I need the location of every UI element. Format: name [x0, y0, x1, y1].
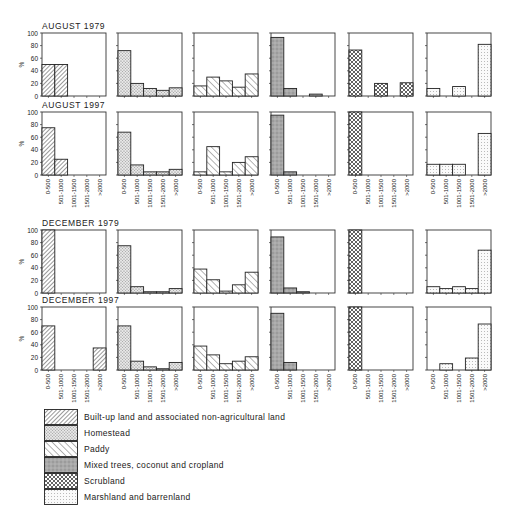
bar [118, 51, 131, 96]
x-tick-label: 1001-1500 [147, 178, 153, 207]
y-tick-label: 80 [31, 121, 39, 128]
bar [42, 326, 55, 370]
bar [232, 361, 245, 370]
bar [93, 348, 106, 370]
bar [440, 164, 453, 175]
bar [453, 87, 466, 96]
bar [156, 292, 169, 293]
x-tick-label: >2000 [326, 178, 332, 196]
bar [245, 157, 258, 175]
x-tick-label: 0-500 [274, 178, 280, 194]
bar [194, 86, 207, 96]
bar [194, 172, 207, 175]
x-tick-label: 0-500 [430, 178, 436, 194]
bar [42, 128, 55, 175]
legend-swatch-icon [44, 425, 78, 441]
y-tick-label: 40 [31, 264, 39, 271]
bar [349, 112, 362, 175]
x-tick-label: 0-500 [197, 373, 203, 389]
x-tick-label: 501-1000 [210, 373, 216, 399]
legend: Built-up land and associated non-agricul… [44, 409, 285, 505]
legend-label: Scrubland [84, 476, 125, 486]
x-tick-label: 0-500 [352, 178, 358, 194]
bar [207, 280, 220, 293]
x-tick-label: >2000 [249, 373, 255, 391]
x-tick-label: >2000 [326, 373, 332, 391]
bar [156, 90, 169, 96]
x-tick-label: >2000 [482, 373, 488, 391]
y-axis-label: % [18, 61, 25, 67]
x-tick-label: 1501-2000 [469, 178, 475, 207]
bar [284, 288, 297, 293]
x-tick-label: >2000 [249, 178, 255, 196]
chart-panel [116, 230, 182, 295]
legend-swatch-icon [44, 473, 78, 489]
y-tick-label: 40 [31, 67, 39, 74]
x-tick-label: 1001-1500 [300, 373, 306, 402]
bar [465, 289, 478, 293]
period-title: AUGUST 1997 [42, 100, 105, 110]
x-tick-label: 1001-1500 [71, 373, 77, 402]
y-tick-label: 80 [31, 42, 39, 49]
x-tick-label: 501-1000 [365, 178, 371, 204]
y-tick-label: 100 [27, 30, 38, 37]
x-tick-label: 0-500 [430, 373, 436, 389]
y-tick-label: 100 [27, 109, 38, 116]
bar [271, 237, 284, 293]
y-tick-label: 60 [31, 252, 39, 259]
legend-label: Mixed trees, coconut and cropland [84, 460, 224, 470]
bar [194, 269, 207, 293]
x-tick-label: 1001-1500 [147, 373, 153, 402]
bar [220, 291, 233, 293]
legend-swatch-icon [44, 489, 78, 505]
panel-row: DECEMBER 1979020406080100% [18, 218, 491, 297]
bar [427, 88, 440, 96]
bar [131, 165, 144, 175]
bar [478, 44, 491, 96]
chart-panel [192, 33, 258, 98]
x-tick-label: 1501-2000 [236, 373, 242, 402]
y-tick-label: 60 [31, 55, 39, 62]
bar [220, 364, 233, 370]
y-tick-label: 0 [34, 367, 38, 374]
x-tick-label: 1501-2000 [236, 178, 242, 207]
legend-item: Homestead [44, 425, 285, 441]
chart-panel: 0-500501-10001001-15001501-2000>2000 [192, 112, 258, 208]
bar [271, 37, 284, 96]
y-axis-label: % [18, 335, 25, 341]
chart-panel [269, 33, 335, 98]
x-tick-label: 0-500 [197, 178, 203, 194]
bar [194, 346, 207, 370]
chart-panel: 0-500501-10001001-15001501-2000>2000 [269, 112, 335, 208]
x-tick-label: 1501-2000 [160, 373, 166, 402]
x-tick-label: 501-1000 [134, 373, 140, 399]
y-tick-label: 20 [31, 277, 39, 284]
legend-item: Scrubland [44, 473, 285, 489]
x-tick-label: 0-500 [121, 178, 127, 194]
y-axis-label: % [18, 140, 25, 146]
bar [478, 133, 491, 175]
bar [349, 50, 362, 96]
x-tick-label: 0-500 [45, 373, 51, 389]
legend-label: Homestead [84, 428, 130, 438]
period-title: DECEMBER 1997 [42, 295, 119, 305]
x-tick-label: 1001-1500 [71, 178, 77, 207]
chart-panel [425, 33, 491, 98]
chart-panel [347, 33, 413, 98]
chart-panel: 0-500501-10001001-15001501-2000>2000 [40, 112, 106, 208]
y-tick-label: 20 [31, 80, 39, 87]
x-tick-label: >2000 [404, 178, 410, 196]
bar [144, 367, 157, 370]
x-tick-label: 0-500 [121, 373, 127, 389]
y-tick-label: 0 [34, 290, 38, 297]
chart-panel: 0-500501-10001001-15001501-2000>2000 [269, 307, 335, 403]
chart-panel [116, 33, 182, 98]
bar [271, 313, 284, 370]
y-axis-label: % [18, 258, 25, 264]
chart-panel: 0-500501-10001001-15001501-2000>2000 [425, 112, 491, 208]
bar [465, 358, 478, 370]
bar [131, 361, 144, 370]
x-tick-label: 1501-2000 [84, 178, 90, 207]
bar [478, 250, 491, 293]
x-tick-label: 1001-1500 [456, 178, 462, 207]
